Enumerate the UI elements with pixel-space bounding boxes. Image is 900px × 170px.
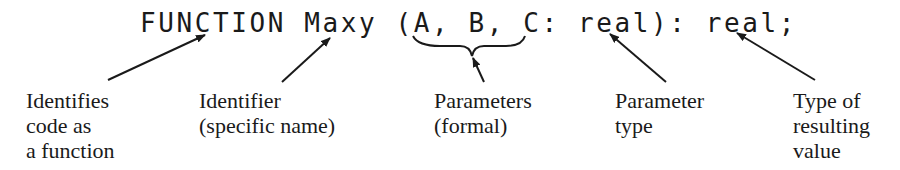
arrow-result-type: [737, 33, 815, 80]
arrow-parameter-type: [610, 34, 666, 82]
annotation-function-keyword: Identifies code as a function: [26, 88, 115, 163]
annotation-arrows: [0, 0, 900, 170]
annotation-parameters: Parameters (formal): [434, 88, 532, 138]
parameters-brace: [413, 36, 525, 56]
arrow-identifier: [282, 38, 330, 82]
annotation-result-type: Type of resulting value: [793, 88, 870, 163]
annotation-parameter-type: Parameter type: [615, 88, 704, 138]
arrow-function-keyword: [108, 35, 205, 80]
arrow-parameters: [473, 58, 484, 82]
annotation-identifier: Identifier (specific name): [199, 88, 335, 138]
